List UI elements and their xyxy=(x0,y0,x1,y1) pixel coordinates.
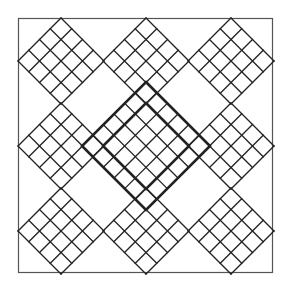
quilt-pattern-diagram xyxy=(0,0,292,291)
diamond-grids xyxy=(18,18,274,274)
